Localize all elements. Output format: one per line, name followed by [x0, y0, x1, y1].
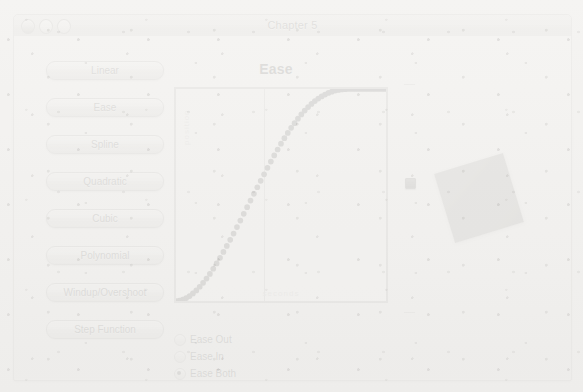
radio-button-icon[interactable]: [174, 368, 186, 380]
easing-direction-radio-group: Ease Out Ease In Ease Both: [174, 332, 314, 381]
chart-x-axis-label: seconds: [176, 289, 386, 298]
radio-button-icon[interactable]: [174, 351, 186, 363]
easing-button-ease[interactable]: Ease: [46, 98, 164, 117]
easing-type-button-list: Linear Ease Spline Quadratic Cubic Polyn…: [46, 61, 164, 357]
chart-title: Ease: [161, 61, 391, 77]
window-content: Linear Ease Spline Quadratic Cubic Polyn…: [14, 36, 571, 379]
easing-button-linear[interactable]: Linear: [46, 61, 164, 80]
slider-tick-bottom: [404, 312, 415, 313]
radio-button-icon[interactable]: [174, 334, 186, 346]
radio-ease-both[interactable]: Ease Both: [174, 366, 314, 381]
easing-curve-series: [176, 89, 386, 301]
animated-square: [434, 153, 524, 243]
chart-plot-inner: position seconds: [176, 89, 386, 301]
easing-button-step-function[interactable]: Step Function: [46, 320, 164, 339]
radio-label: Ease Both: [190, 368, 236, 379]
application-window: Chapter 5 Linear Ease Spline Quadratic C…: [13, 14, 572, 381]
window-titlebar[interactable]: Chapter 5: [14, 15, 571, 37]
radio-label: Ease In: [190, 351, 224, 362]
slider-tick-top: [404, 84, 415, 85]
easing-button-quadratic[interactable]: Quadratic: [46, 172, 164, 191]
radio-ease-in[interactable]: Ease In: [174, 349, 314, 364]
easing-button-polynomial[interactable]: Polynomial: [46, 246, 164, 265]
easing-curve-chart: Ease position seconds: [161, 61, 391, 329]
easing-button-spline[interactable]: Spline: [46, 135, 164, 154]
easing-button-cubic[interactable]: Cubic: [46, 209, 164, 228]
radio-ease-out[interactable]: Ease Out: [174, 332, 314, 347]
slider-thumb[interactable]: [405, 178, 416, 189]
vertical-position-slider[interactable]: [403, 73, 417, 313]
window-title: Chapter 5: [14, 18, 571, 32]
chart-y-axis-label: position: [182, 109, 191, 145]
chart-plot-area[interactable]: position seconds: [174, 87, 388, 303]
easing-button-windup-overshoot[interactable]: Windup/Overshoot: [46, 283, 164, 302]
radio-label: Ease Out: [190, 334, 232, 345]
